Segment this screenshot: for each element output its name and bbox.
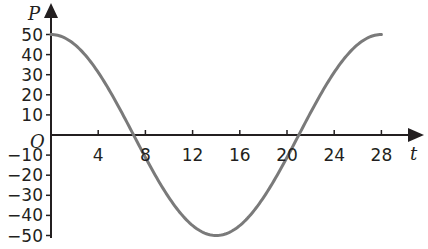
x-axis-label: t — [410, 143, 418, 164]
chart: 5040302010−10−20−30−40−50481216202428PtO — [0, 0, 428, 249]
y-tick-label: −50 — [7, 226, 43, 246]
x-tick-label: 4 — [93, 145, 104, 165]
y-tick-label: 20 — [21, 85, 43, 105]
origin-label: O — [30, 131, 45, 152]
y-axis-arrow-icon — [44, 3, 58, 18]
x-tick-label: 20 — [276, 145, 298, 165]
x-tick-label: 24 — [323, 145, 345, 165]
x-tick-label: 8 — [140, 145, 151, 165]
y-tick-label: −40 — [7, 205, 43, 225]
x-tick-label: 16 — [229, 145, 251, 165]
x-tick-label: 12 — [182, 145, 204, 165]
y-tick-label: −20 — [7, 165, 43, 185]
y-tick-label: 30 — [21, 65, 43, 85]
y-tick-label: −30 — [7, 185, 43, 205]
y-axis-label: P — [27, 3, 41, 24]
y-tick-label: 40 — [21, 45, 43, 65]
y-tick-label: 50 — [21, 25, 43, 45]
x-tick-label: 28 — [371, 145, 393, 165]
x-axis-arrow-icon — [408, 128, 424, 142]
y-tick-label: 10 — [21, 105, 43, 125]
